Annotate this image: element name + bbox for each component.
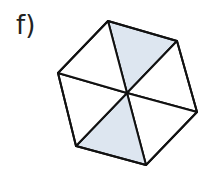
- triangle-group: [58, 21, 197, 165]
- hexagon-diagram: [0, 0, 210, 169]
- figure-stage: f): [0, 0, 210, 169]
